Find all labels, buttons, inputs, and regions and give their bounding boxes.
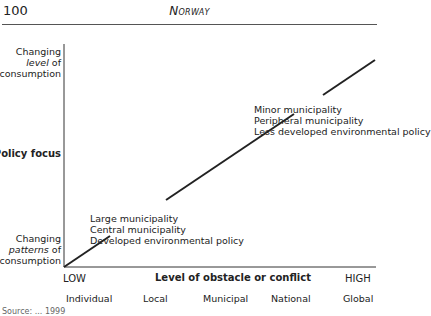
x-category-local: Local [143, 293, 168, 304]
x-axis-high: HIGH [345, 273, 371, 284]
upper-note: Minor municipality Peripheral municipali… [254, 104, 431, 137]
source-note: Source: ... 1999 [2, 307, 65, 316]
x-category-national: National [271, 293, 311, 304]
y-axis-top-label: Changing level of consumption [0, 46, 61, 79]
lower-note: Large municipality Central municipality … [90, 213, 244, 246]
x-category-individual: Individual [66, 293, 112, 304]
x-axis-low: LOW [63, 273, 86, 284]
x-category-global: Global [343, 293, 373, 304]
x-category-municipal: Municipal [203, 293, 248, 304]
trend-line-segment-3 [323, 60, 375, 95]
y-axis-bottom-label: Changing patterns of consumption [0, 233, 61, 266]
y-axis-title: Policy focus [0, 148, 61, 159]
x-axis-title: Level of obstacle or conflict [155, 272, 311, 283]
